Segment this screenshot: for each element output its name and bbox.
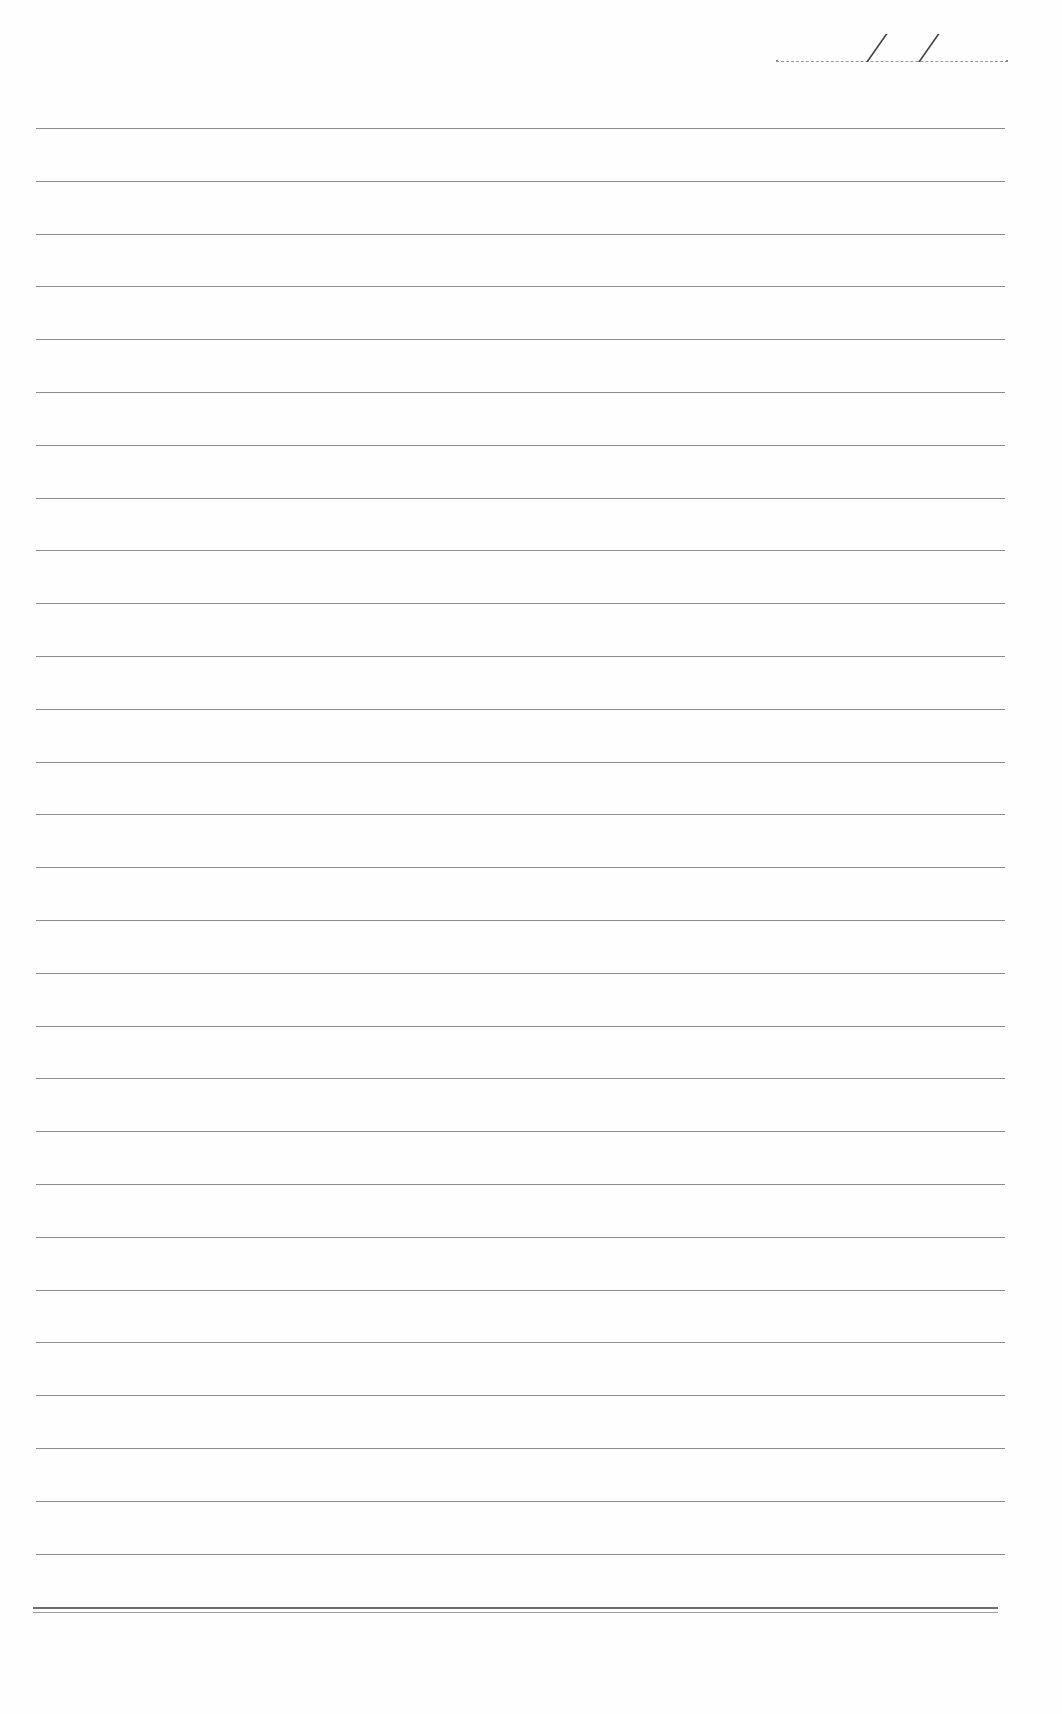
ruled-line <box>36 814 1005 815</box>
ruled-line <box>36 339 1005 340</box>
ruled-line <box>36 550 1005 551</box>
ruled-line <box>36 656 1005 657</box>
bottom-rule-thin <box>33 1612 998 1613</box>
ruled-line <box>36 1501 1005 1502</box>
ruled-line <box>36 1237 1005 1238</box>
ruled-line <box>36 1554 1005 1555</box>
ruled-line <box>36 286 1005 287</box>
ruled-line <box>36 603 1005 604</box>
ruled-lines <box>0 0 1062 1714</box>
ruled-line <box>36 1078 1005 1079</box>
ruled-line <box>36 445 1005 446</box>
ruled-line <box>36 920 1005 921</box>
bottom-rule-thick <box>33 1607 998 1609</box>
ruled-line <box>36 128 1005 129</box>
ruled-line <box>36 762 1005 763</box>
ruled-line <box>36 709 1005 710</box>
ruled-line <box>36 1184 1005 1185</box>
ruled-line <box>36 392 1005 393</box>
ruled-line <box>36 181 1005 182</box>
ruled-line <box>36 867 1005 868</box>
notebook-page <box>0 0 1062 1714</box>
ruled-line <box>36 1342 1005 1343</box>
ruled-line <box>36 234 1005 235</box>
ruled-line <box>36 1290 1005 1291</box>
ruled-line <box>36 1448 1005 1449</box>
ruled-line <box>36 498 1005 499</box>
ruled-line <box>36 973 1005 974</box>
ruled-line <box>36 1026 1005 1027</box>
ruled-line <box>36 1131 1005 1132</box>
ruled-line <box>36 1395 1005 1396</box>
